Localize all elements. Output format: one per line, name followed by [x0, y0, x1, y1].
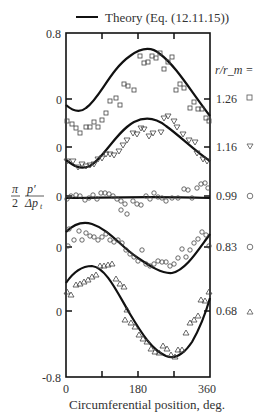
- series-label-4: 0.83: [216, 240, 253, 254]
- svg-text:1.26: 1.26: [216, 92, 237, 106]
- triangle-marker-icon: [247, 309, 253, 314]
- series-label-1: 1.26: [216, 92, 252, 106]
- inverted-triangle-marker-icon: [247, 144, 253, 149]
- svg-text:2: 2: [12, 196, 18, 210]
- svg-text:0.99: 0.99: [216, 189, 237, 203]
- svg-text:π: π: [12, 182, 19, 196]
- x-tick-0: 0: [63, 382, 69, 396]
- legend-label: Theory (Eq. (12.11.15)): [105, 10, 229, 25]
- y-tick-top: 0.8: [46, 27, 61, 41]
- data-markers-1-26: [65, 51, 211, 135]
- circle-marker-icon: [247, 193, 253, 199]
- chart-canvas: Theory (Eq. (12.11.15)) 0.8 -0.8 0 0 0 0…: [0, 0, 264, 417]
- series-label-2: 1.16: [216, 140, 253, 154]
- series-label-3: 0.99: [216, 189, 253, 203]
- x-tick-180: 180: [129, 382, 147, 396]
- data-markers-1-16: [64, 114, 210, 170]
- svg-text:Δp: Δp: [24, 196, 38, 210]
- y-zero-3: 0: [56, 190, 62, 204]
- y-axis-label: π 2 p′ Δp t: [11, 182, 44, 211]
- svg-text:1.16: 1.16: [216, 140, 237, 154]
- x-axis-label: Circumferential position, deg.: [69, 397, 225, 412]
- x-tick-360: 360: [198, 382, 216, 396]
- circle-marker-icon: [247, 244, 253, 250]
- theory-curve-0-99: [66, 197, 210, 198]
- series-label-5: 0.68: [216, 304, 253, 318]
- svg-text:0.68: 0.68: [216, 304, 237, 318]
- svg-text:p′: p′: [26, 182, 36, 196]
- right-header: r/r_m =: [215, 63, 253, 77]
- svg-text:0.83: 0.83: [216, 240, 237, 254]
- y-zero-5: 0: [56, 305, 62, 319]
- svg-text:t: t: [40, 202, 43, 211]
- top-ticks: [102, 33, 174, 39]
- y-zero-1: 0: [56, 93, 62, 107]
- theory-curve-0-68: [66, 266, 210, 357]
- square-marker-icon: [247, 95, 252, 100]
- y-zero-2: 0: [56, 141, 62, 155]
- theory-curves: [66, 49, 210, 357]
- y-zero-4: 0: [56, 241, 62, 255]
- zero-ticks: [66, 99, 210, 311]
- y-tick-bottom: -0.8: [42, 371, 61, 385]
- bottom-ticks: [102, 371, 174, 377]
